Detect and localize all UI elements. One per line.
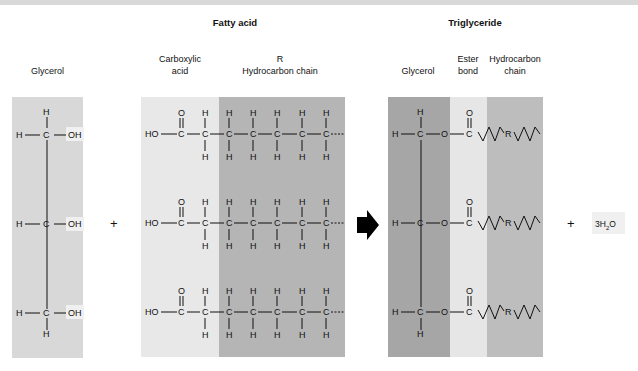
svg-text:H: H [274,330,281,340]
svg-text:C: C [417,218,424,228]
svg-text:H: H [202,330,209,340]
svg-text:H: H [16,219,23,229]
svg-text:C: C [250,129,257,139]
svg-text:H: H [250,241,257,251]
svg-text:H: H [299,286,306,296]
svg-text:H: H [299,108,306,118]
reaction-arrow-icon [357,210,379,240]
svg-text:H: H [226,286,233,296]
svg-text:H: H [299,197,306,207]
svg-text:H: H [274,197,281,207]
svg-text:H: H [226,152,233,162]
svg-text:H: H [392,218,399,228]
svg-text:H: H [323,197,330,207]
svg-text:+: + [567,216,575,231]
svg-text:H: H [226,197,233,207]
svg-text:C: C [43,130,50,140]
svg-text:H: H [202,197,209,207]
svg-text:3H2O: 3H2O [595,219,616,231]
svg-text:O: O [178,108,185,118]
svg-text:O: O [441,307,448,317]
svg-text:HO: HO [145,307,159,317]
svg-text:H: H [226,108,233,118]
svg-text:H: H [323,108,330,118]
svg-text:H: H [250,197,257,207]
svg-text:H: H [250,330,257,340]
svg-text:H: H [323,241,330,251]
svg-text:OH: OH [68,308,82,318]
svg-text:C: C [274,218,281,228]
svg-text:O: O [466,197,473,207]
svg-text:C: C [466,218,473,228]
svg-text:O: O [178,197,185,207]
svg-text:C: C [178,129,185,139]
svg-text:C: C [466,307,473,317]
svg-text:H: H [274,108,281,118]
svg-text:C: C [323,129,330,139]
svg-text:H: H [250,108,257,118]
svg-text:H: H [299,152,306,162]
svg-text:H: H [274,286,281,296]
svg-text:H: H [202,241,209,251]
svg-text:H: H [202,152,209,162]
svg-text:H: H [16,130,23,140]
svg-text:H: H [202,286,209,296]
svg-text:H: H [299,330,306,340]
svg-text:C: C [466,129,473,139]
svg-text:R: R [505,218,512,228]
svg-text:R: R [505,129,512,139]
svg-text:H: H [226,330,233,340]
svg-text:C: C [274,307,281,317]
svg-text:H: H [43,329,50,339]
structural-formulas: H HCOH HCOH HCOH H + + 3H2O [0,0,638,371]
svg-text:C: C [202,218,209,228]
svg-text:C: C [274,129,281,139]
h-atom: H [43,107,50,117]
svg-text:H: H [250,286,257,296]
svg-text:O: O [178,286,185,296]
svg-text:C: C [323,218,330,228]
svg-text:C: C [250,307,257,317]
svg-text:C: C [323,307,330,317]
svg-text:H: H [299,241,306,251]
svg-text:C: C [178,307,185,317]
svg-text:C: C [43,219,50,229]
svg-text:H: H [202,108,209,118]
svg-text:H: H [274,241,281,251]
svg-text:C: C [299,218,306,228]
svg-text:C: C [299,129,306,139]
svg-text:H: H [392,129,399,139]
svg-text:O: O [466,286,473,296]
svg-text:O: O [441,129,448,139]
svg-text:H: H [274,152,281,162]
svg-text:H: H [16,308,23,318]
svg-text:HO: HO [145,218,159,228]
svg-text:C: C [226,218,233,228]
svg-text:C: C [202,307,209,317]
svg-text:C: C [417,129,424,139]
svg-text:H: H [417,329,424,339]
svg-text:C: C [178,218,185,228]
svg-text:C: C [226,129,233,139]
svg-text:H: H [323,152,330,162]
svg-text:H: H [392,307,399,317]
svg-text:C: C [299,307,306,317]
svg-text:O: O [466,108,473,118]
svg-text:C: C [417,307,424,317]
svg-text:C: C [250,218,257,228]
svg-text:OH: OH [68,219,82,229]
svg-text:OH: OH [68,130,82,140]
svg-text:R: R [505,307,512,317]
svg-text:C: C [226,307,233,317]
svg-text:C: C [202,129,209,139]
svg-text:H: H [323,330,330,340]
svg-text:H: H [323,286,330,296]
svg-text:C: C [43,308,50,318]
svg-text:+: + [110,216,118,231]
svg-text:HO: HO [145,129,159,139]
svg-text:O: O [441,218,448,228]
svg-text:H: H [250,152,257,162]
svg-text:H: H [226,241,233,251]
svg-text:H: H [417,107,424,117]
